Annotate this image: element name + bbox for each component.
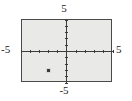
y-axis-tick bbox=[65, 70, 68, 71]
x-axis-tick bbox=[21, 50, 22, 53]
y-axis-tick bbox=[65, 83, 68, 84]
y-axis-tick bbox=[65, 64, 68, 65]
axis-label-top: 5 bbox=[0, 3, 132, 14]
axis-label-bottom: -5 bbox=[0, 85, 132, 96]
y-axis-tick bbox=[65, 57, 68, 58]
x-axis-tick bbox=[103, 50, 104, 53]
y-axis-tick bbox=[65, 45, 68, 46]
y-axis-tick bbox=[65, 26, 68, 27]
axis-label-left: -5 bbox=[1, 44, 10, 55]
x-axis-tick bbox=[85, 50, 86, 53]
plot-area bbox=[21, 19, 112, 82]
axis-label-right: 5 bbox=[116, 44, 122, 55]
axis-label-top-text: 5 bbox=[61, 2, 67, 14]
y-axis-tick bbox=[65, 20, 68, 21]
y-axis-tick bbox=[65, 38, 68, 39]
x-axis-tick bbox=[113, 50, 114, 53]
y-axis bbox=[66, 20, 67, 83]
x-axis-tick bbox=[94, 50, 95, 53]
x-axis-tick bbox=[39, 50, 40, 53]
x-axis-tick bbox=[48, 50, 49, 53]
y-axis-tick bbox=[65, 76, 68, 77]
x-axis-tick bbox=[76, 50, 77, 53]
data-point bbox=[46, 68, 51, 73]
y-axis-tick bbox=[65, 32, 68, 33]
coordinate-plane-figure: 5 -5 5 -5 bbox=[0, 0, 132, 101]
axis-label-bottom-text: -5 bbox=[59, 84, 68, 96]
x-axis bbox=[22, 51, 113, 52]
x-axis-tick bbox=[57, 50, 58, 53]
x-axis-tick bbox=[30, 50, 31, 53]
